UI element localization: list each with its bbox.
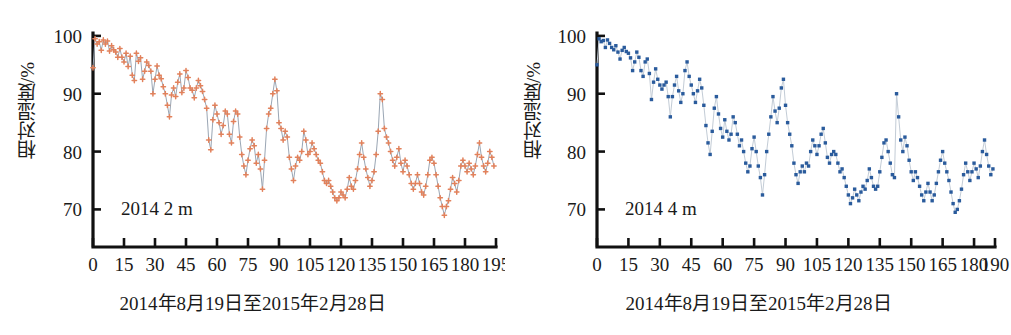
series-annotation: 2014 4 m <box>625 198 697 219</box>
series-line <box>597 39 993 213</box>
y-tick-label: 80 <box>63 142 82 163</box>
figure-root: 相对湿度/% 708090100015304560759010512013515… <box>0 0 1011 335</box>
y-tick-label: 80 <box>567 142 586 163</box>
y-tick-label: 90 <box>63 84 82 105</box>
x-tick-label: 90 <box>776 254 795 275</box>
x-tick-label: 105 <box>296 254 325 275</box>
x-tick-label: 60 <box>713 254 732 275</box>
x-tick-label: 45 <box>177 254 196 275</box>
x-tick-label: 135 <box>866 254 895 275</box>
series-markers <box>595 37 994 214</box>
plot-area-left: 7080901000153045607590105120135150165180… <box>0 0 505 290</box>
x-tick-label: 190 <box>981 254 1010 275</box>
chart-panel-right: 相对湿度/% 708090100015304560759010512013515… <box>506 0 1011 335</box>
x-tick-label: 180 <box>451 254 480 275</box>
x-tick-label: 0 <box>88 254 98 275</box>
x-tick-label: 165 <box>928 254 957 275</box>
x-tick-label: 75 <box>239 254 258 275</box>
x-tick-label: 120 <box>327 254 356 275</box>
x-tick-label: 150 <box>897 254 926 275</box>
x-tick-label: 150 <box>389 254 418 275</box>
x-tick-label: 45 <box>682 254 701 275</box>
chart-panel-left: 相对湿度/% 708090100015304560759010512013515… <box>0 0 505 335</box>
x-tick-label: 195 <box>482 254 505 275</box>
x-tick-label: 0 <box>592 254 602 275</box>
x-axis-caption-left: 2014年8月19日至2015年2月28日 <box>0 288 505 315</box>
series-markers <box>91 37 496 218</box>
y-tick-label: 70 <box>567 199 586 220</box>
y-tick-label: 70 <box>63 199 82 220</box>
x-tick-label: 90 <box>270 254 289 275</box>
x-tick-label: 15 <box>115 254 134 275</box>
x-tick-label: 30 <box>650 254 669 275</box>
series-annotation: 2014 2 m <box>121 198 193 219</box>
x-tick-label: 120 <box>834 254 863 275</box>
y-tick-label: 90 <box>567 84 586 105</box>
x-tick-label: 165 <box>420 254 449 275</box>
x-tick-label: 30 <box>146 254 165 275</box>
y-tick-label: 100 <box>558 26 587 47</box>
x-axis-caption-right: 2014年8月19日至2015年2月28日 <box>506 288 1011 315</box>
x-tick-label: 15 <box>619 254 638 275</box>
plot-area-right: 7080901000153045607590105120135150165180… <box>506 0 1011 290</box>
x-tick-label: 60 <box>208 254 227 275</box>
x-tick-label: 105 <box>803 254 832 275</box>
series-line <box>93 39 494 215</box>
x-tick-label: 75 <box>745 254 764 275</box>
x-tick-label: 135 <box>358 254 387 275</box>
y-tick-label: 100 <box>54 26 83 47</box>
